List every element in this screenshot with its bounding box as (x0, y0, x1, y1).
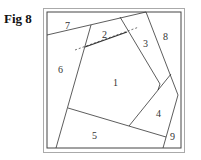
pattern-diagram: 1 2 3 4 5 6 7 8 9 (0, 0, 201, 160)
piece-number: 6 (58, 64, 63, 75)
piece-number: 5 (92, 130, 97, 141)
seam-5 (68, 108, 166, 137)
piece-number: 4 (156, 108, 161, 119)
seam-7 (47, 12, 146, 35)
piece-number: 1 (113, 77, 118, 88)
seam-6 (56, 25, 91, 148)
seam-8 (146, 12, 178, 95)
seam-3 (120, 17, 160, 84)
piece-number: 2 (102, 29, 107, 40)
piece-number: 3 (143, 38, 148, 49)
piece-numbers: 1 2 3 4 5 6 7 8 9 (58, 20, 175, 142)
piece-number: 7 (65, 20, 70, 31)
piece-number: 8 (163, 31, 168, 42)
piece-number: 9 (170, 131, 175, 142)
seam-4 (129, 74, 171, 126)
